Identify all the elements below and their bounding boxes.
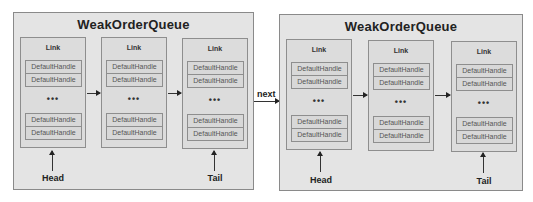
- default-handle: DefaultHandle: [374, 129, 429, 142]
- handle-group-bottom: DefaultHandle DefaultHandle: [456, 117, 513, 144]
- default-handle: DefaultHandle: [26, 61, 81, 73]
- queue-title: WeakOrderQueue: [14, 17, 253, 32]
- ellipsis: •••: [452, 98, 516, 108]
- tail-label: Tail: [464, 176, 504, 186]
- link-node: Link DefaultHandle DefaultHandle ••• Def…: [20, 37, 86, 148]
- link-arrow: [168, 93, 181, 94]
- handle-group-top: DefaultHandle DefaultHandle: [373, 63, 430, 90]
- handle-group-top: DefaultHandle DefaultHandle: [106, 60, 163, 87]
- head-label: Head: [33, 173, 73, 183]
- handle-group-top: DefaultHandle DefaultHandle: [456, 64, 513, 91]
- tail-label: Tail: [195, 173, 235, 183]
- next-label: next: [257, 89, 276, 99]
- handle-group-top: DefaultHandle DefaultHandle: [25, 60, 82, 87]
- default-handle: DefaultHandle: [457, 77, 512, 90]
- link-arrow: [353, 95, 367, 96]
- default-handle: DefaultHandle: [26, 114, 81, 126]
- default-handle: DefaultHandle: [292, 63, 347, 75]
- default-handle: DefaultHandle: [457, 130, 512, 143]
- default-handle: DefaultHandle: [457, 65, 512, 77]
- next-arrow: [254, 101, 279, 102]
- weak-order-queue-2: WeakOrderQueue Link DefaultHandle Defaul…: [279, 14, 523, 191]
- queue-title: WeakOrderQueue: [280, 19, 522, 34]
- default-handle: DefaultHandle: [107, 126, 162, 139]
- handle-group-top: DefaultHandle DefaultHandle: [291, 62, 348, 89]
- default-handle: DefaultHandle: [188, 127, 243, 140]
- tail-arrow: [483, 153, 484, 173]
- ellipsis: •••: [369, 97, 433, 107]
- head-arrow: [52, 151, 53, 171]
- default-handle: DefaultHandle: [292, 75, 347, 88]
- handle-group-bottom: DefaultHandle DefaultHandle: [291, 115, 348, 142]
- link-node: Link DefaultHandle DefaultHandle ••• Def…: [182, 38, 248, 149]
- default-handle: DefaultHandle: [292, 116, 347, 128]
- handle-group-top: DefaultHandle DefaultHandle: [187, 61, 244, 88]
- weak-order-queue-1: WeakOrderQueue Link DefaultHandle Defaul…: [13, 12, 254, 190]
- default-handle: DefaultHandle: [107, 114, 162, 126]
- handle-group-bottom: DefaultHandle DefaultHandle: [187, 114, 244, 141]
- link-arrow: [87, 93, 100, 94]
- tail-arrow: [214, 151, 215, 171]
- ellipsis: •••: [287, 96, 351, 106]
- head-label: Head: [301, 175, 341, 185]
- default-handle: DefaultHandle: [26, 126, 81, 139]
- head-arrow: [320, 152, 321, 172]
- link-arrow: [435, 95, 450, 96]
- link-node: Link DefaultHandle DefaultHandle ••• Def…: [368, 40, 434, 151]
- ellipsis: •••: [183, 95, 247, 105]
- link-node: Link DefaultHandle DefaultHandle ••• Def…: [286, 39, 352, 150]
- default-handle: DefaultHandle: [188, 74, 243, 87]
- link-title: Link: [21, 44, 85, 51]
- default-handle: DefaultHandle: [374, 117, 429, 129]
- handle-group-bottom: DefaultHandle DefaultHandle: [373, 116, 430, 143]
- default-handle: DefaultHandle: [26, 73, 81, 86]
- handle-group-bottom: DefaultHandle DefaultHandle: [25, 113, 82, 140]
- link-title: Link: [369, 47, 433, 54]
- default-handle: DefaultHandle: [374, 76, 429, 89]
- default-handle: DefaultHandle: [457, 118, 512, 130]
- link-title: Link: [102, 44, 166, 51]
- default-handle: DefaultHandle: [188, 62, 243, 74]
- default-handle: DefaultHandle: [292, 128, 347, 141]
- default-handle: DefaultHandle: [188, 115, 243, 127]
- link-node: Link DefaultHandle DefaultHandle ••• Def…: [451, 41, 517, 152]
- link-title: Link: [183, 45, 247, 52]
- ellipsis: •••: [102, 94, 166, 104]
- default-handle: DefaultHandle: [374, 64, 429, 76]
- handle-group-bottom: DefaultHandle DefaultHandle: [106, 113, 163, 140]
- link-node: Link DefaultHandle DefaultHandle ••• Def…: [101, 37, 167, 148]
- default-handle: DefaultHandle: [107, 73, 162, 86]
- link-title: Link: [287, 46, 351, 53]
- link-title: Link: [452, 48, 516, 55]
- ellipsis: •••: [21, 94, 85, 104]
- default-handle: DefaultHandle: [107, 61, 162, 73]
